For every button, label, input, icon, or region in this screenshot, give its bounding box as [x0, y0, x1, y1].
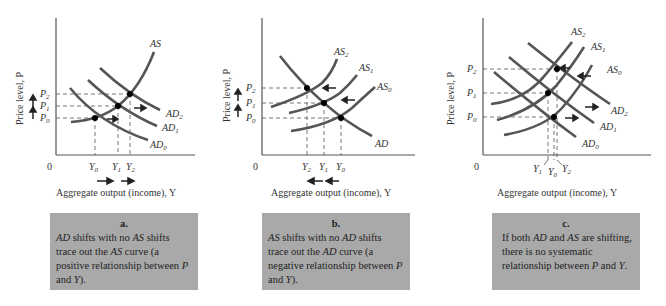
x-axis-title: Aggregate output (income), Y: [497, 187, 617, 199]
as2-curve: [491, 42, 572, 104]
y-axis-title: Price level, P: [445, 72, 456, 125]
curve-label-ad: AD: [374, 138, 389, 149]
curve-label-as1: AS1: [590, 41, 606, 54]
panel-b: AS2 AS1 AS0 AD P2 P1 P0 Y2 Y1 Y0 0 Aggre…: [222, 0, 444, 306]
caption-letter: b.: [268, 217, 404, 231]
price-label-p1: P1: [466, 87, 477, 100]
curve-label-ad1: AD1: [161, 122, 179, 135]
output-label-y2: Y2: [126, 161, 136, 174]
output-label-y0: Y0: [336, 161, 346, 174]
price-label-p2: P2: [466, 63, 477, 76]
panel-c: AS2 AS1 AS0 AD2 AD1 AD0 P2 P1 P0 Y1 Y0 Y…: [444, 0, 666, 306]
y-axis-title: Price level, P: [14, 72, 25, 125]
x-axis-title: Aggregate output (income), Y: [271, 187, 391, 199]
curve-label-as2: AS2: [570, 26, 586, 39]
caption-text: If both AD and AS are shifting, there is…: [498, 231, 634, 273]
output-label-y1: Y1: [112, 161, 121, 174]
curve-label-as0: AS0: [606, 64, 622, 77]
curve-label-as1: AS1: [358, 62, 374, 75]
curve-label-ad0: AD0: [581, 138, 599, 151]
curve-label-as: AS: [149, 38, 161, 49]
output-label-y0: Y0: [548, 166, 558, 179]
curves: [491, 42, 610, 137]
origin-label: 0: [253, 161, 258, 172]
output-label-y1: Y1: [319, 161, 328, 174]
caption-text: AD shifts with no AS shifts trace out th…: [56, 231, 192, 287]
origin-label: 0: [47, 161, 52, 172]
output-label-y1: Y1: [533, 163, 542, 176]
panel-a: AS AD2 AD1 AD0 P2 P1 P0 Y0 Y1 Y2 0 Aggre…: [0, 0, 222, 306]
price-label-p0: P0: [39, 112, 50, 125]
caption-text: AS shifts with no AD shifts trace out th…: [268, 231, 404, 287]
output-leader-lines: [544, 160, 562, 165]
price-label-p1: P1: [245, 97, 256, 110]
caption-letter: a.: [56, 217, 192, 231]
curve-label-ad1: AD1: [599, 121, 617, 134]
origin-label: 0: [474, 161, 479, 172]
curve-label-ad2: AD2: [610, 105, 628, 118]
price-label-p2: P2: [245, 82, 256, 95]
price-label-p0: P0: [466, 111, 477, 124]
curve-label-ad2: AD2: [165, 108, 183, 121]
output-label-y0: Y0: [89, 161, 99, 174]
caption-box-b: b. AS shifts with no AD shifts trace out…: [262, 213, 410, 290]
ad2-curve: [528, 43, 610, 104]
y-axis-title: Price level, P: [222, 69, 232, 122]
curves: [70, 52, 160, 140]
curve-label-as0: AS0: [376, 81, 392, 94]
output-label-y2: Y2: [302, 161, 312, 174]
caption-box-c: c. If both AD and AS are shifting, there…: [492, 213, 640, 290]
caption-letter: c.: [498, 217, 634, 231]
caption-box-a: a. AD shifts with no AS shifts trace out…: [50, 213, 198, 290]
curve-label-ad0: AD0: [149, 139, 167, 152]
curve-label-as2: AS2: [333, 46, 349, 59]
output-label-y2: Y2: [562, 163, 572, 176]
x-axis-title: Aggregate output (income), Y: [56, 187, 176, 199]
price-label-p0: P0: [245, 112, 256, 125]
